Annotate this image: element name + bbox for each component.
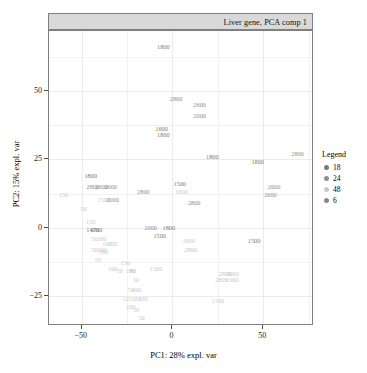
data-point-label: 1800 [84,173,97,179]
data-point-label: 1800 [157,44,170,50]
y-axis-title: PC2: 15% expl. var [11,114,21,234]
facet-panel-wrapper: Liver gene, PCA comp 1 18002800260020001… [48,13,313,325]
data-point-label: 50 [117,268,123,274]
gridline-vertical [309,31,310,324]
legend-title: Legend [322,150,367,159]
data-point-label: 2800 [291,151,304,157]
legend-item-6[interactable]: 6 [322,195,367,206]
facet-strip-header: Liver gene, PCA comp 1 [48,13,313,30]
data-point-label: 150 [86,219,95,225]
y-tick-mark [44,158,48,159]
data-point-label: 50 [133,306,139,312]
facet-strip-label: Liver gene, PCA comp 1 [224,17,307,26]
gridline-vertical [82,31,83,324]
data-point-label: 160 [99,249,108,255]
y-tick-label: −25 [20,290,42,299]
gridline-horizontal [49,57,312,58]
gridline-horizontal [49,159,312,160]
legend-dot-icon [324,198,329,203]
data-point-label: 2800 [170,96,183,102]
gridline-vertical [127,31,128,324]
gridline-vertical [172,31,173,324]
data-point-label: 1800 [251,159,264,165]
legend-dot-icon [324,165,329,170]
data-point-label: 2800 [137,189,150,195]
x-tick-label: 0 [169,331,173,340]
data-point-label: 2000 [106,197,119,203]
x-tick-label: 50 [258,331,266,340]
data-point-label: 50 [80,205,86,211]
legend-item-label: 48 [333,185,341,194]
y-tick-mark [44,90,48,91]
y-tick-label: 0 [20,222,42,231]
legend-item-label: 18 [333,163,341,172]
gridline-horizontal [49,262,312,263]
legend-items: 1824486 [322,162,367,206]
plot-panel: 1800280026002000160018001800180028001800… [48,30,313,325]
data-point-label: 150 [59,192,68,198]
data-point-label: 2600 [264,192,277,198]
data-point-label: 150 [120,260,129,266]
data-point-label: 1500 [173,181,186,187]
data-point-label: 2600 [193,102,206,108]
gridline-vertical [263,31,264,324]
legend-item-48[interactable]: 48 [322,184,367,195]
y-tick-mark [44,227,48,228]
data-point-label: 180 [139,296,148,302]
data-point-label: 160 [131,287,140,293]
pca-scatter-figure: Liver gene, PCA comp 1 18002800260020001… [0,0,367,373]
legend-item-label: 24 [333,174,341,183]
x-tick-mark [81,325,82,329]
y-tick-label: 25 [20,154,42,163]
legend-item-18[interactable]: 18 [322,162,367,173]
data-point-label: 1500 [153,233,166,239]
data-point-label: 1000 [226,276,239,282]
x-tick-label: −50 [74,331,87,340]
data-point-label: 1500 [248,238,261,244]
data-point-label: 125 [122,296,131,302]
data-point-label: 2000 [193,113,206,119]
data-point-label: 1500 [150,265,163,271]
data-point-label: 80 [129,268,135,274]
x-tick-mark [262,325,263,329]
data-point-label: 50 [95,257,101,263]
y-tick-label: 50 [20,86,42,95]
data-point-label: 2800 [188,200,201,206]
data-point-label: 1800 [157,132,170,138]
x-tick-mark [171,325,172,329]
data-point-label: 1800 [182,238,195,244]
data-point-label: 50 [138,315,144,321]
data-point-label: 2800 [184,246,197,252]
legend: Legend 1824486 [322,150,367,206]
legend-item-label: 6 [333,196,337,205]
data-point-label: 1800 [206,153,219,159]
data-point-label: 1500 [212,298,225,304]
data-point-label: 2600 [268,184,281,190]
data-point-label: 1800 [162,225,175,231]
legend-item-24[interactable]: 24 [322,173,367,184]
gridline-horizontal [49,125,312,126]
y-tick-mark [44,295,48,296]
data-point-label: 150 [108,241,117,247]
data-point-label: 50 [133,276,139,282]
legend-dot-icon [324,176,329,181]
x-axis-title: PC1: 28% expl. var [0,350,367,360]
data-point-label: 1700 [90,227,103,233]
data-point-label: 2000 [144,225,157,231]
gridline-horizontal [49,91,312,92]
data-point-label: 1600 [175,189,188,195]
gridline-horizontal [49,296,312,297]
legend-dot-icon [324,187,329,192]
data-point-label: 2600 [104,184,117,190]
